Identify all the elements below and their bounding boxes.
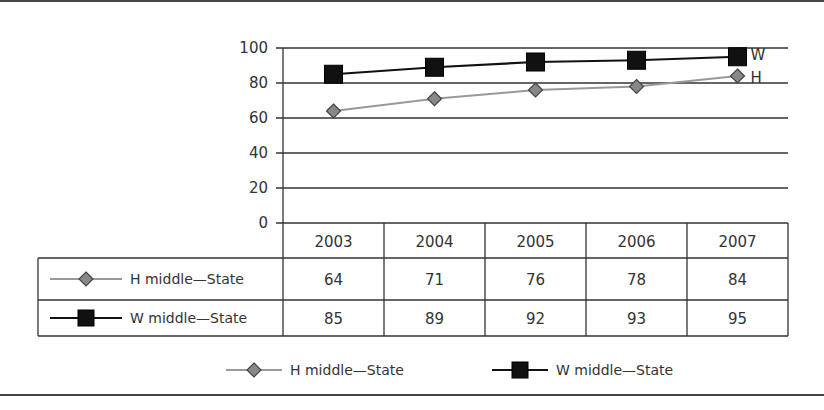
legend-label: H middle—State (290, 362, 404, 378)
table-row-label: H middle—State (130, 271, 244, 287)
diamond-marker-icon (327, 104, 341, 118)
y-tick-label: 20 (249, 179, 268, 197)
table-value-cell: 89 (425, 310, 444, 328)
legend: H middle—StateW middle—State (226, 362, 673, 378)
square-marker-icon (527, 53, 545, 71)
data-table: 20032004200520062007H middle—State647176… (38, 223, 788, 336)
square-marker-icon (628, 51, 646, 69)
diamond-marker-icon (247, 363, 261, 377)
diamond-marker-icon (79, 272, 93, 286)
y-tick-label: 40 (249, 144, 268, 162)
series-end-label: H (751, 69, 762, 87)
series-lines: HW (325, 46, 766, 118)
diamond-marker-icon (529, 83, 543, 97)
diamond-marker-icon (630, 80, 644, 94)
square-marker-icon (78, 310, 94, 326)
series-end-label: W (751, 46, 766, 64)
legend-label: W middle—State (556, 362, 673, 378)
table-row-label: W middle—State (130, 310, 247, 326)
table-header-cell: 2005 (516, 233, 554, 251)
diamond-marker-icon (428, 92, 442, 106)
square-marker-icon (426, 58, 444, 76)
line-chart: 020406080100 HW 20032004200520062007H mi… (0, 0, 824, 410)
table-value-cell: 93 (627, 310, 646, 328)
table-header-cell: 2006 (617, 233, 655, 251)
table-header-cell: 2007 (718, 233, 756, 251)
y-tick-label: 0 (258, 214, 268, 232)
table-header-cell: 2004 (415, 233, 453, 251)
square-marker-icon (729, 48, 747, 66)
table-value-cell: 92 (526, 310, 545, 328)
y-tick-label: 60 (249, 109, 268, 127)
table-value-cell: 85 (324, 310, 343, 328)
table-value-cell: 76 (526, 271, 545, 289)
table-value-cell: 71 (425, 271, 444, 289)
diamond-marker-icon (731, 69, 745, 83)
table-value-cell: 78 (627, 271, 646, 289)
table-value-cell: 64 (324, 271, 343, 289)
square-marker-icon (325, 65, 343, 83)
y-axis-ticks: 020406080100 (239, 39, 268, 232)
y-tick-label: 80 (249, 74, 268, 92)
y-tick-label: 100 (239, 39, 268, 57)
table-value-cell: 84 (728, 271, 747, 289)
table-value-cell: 95 (728, 310, 747, 328)
square-marker-icon (512, 362, 528, 378)
table-header-cell: 2003 (314, 233, 352, 251)
